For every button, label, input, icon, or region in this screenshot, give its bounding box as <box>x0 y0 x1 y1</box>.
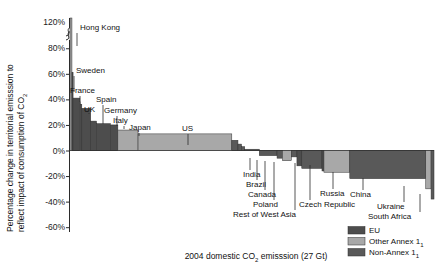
bar <box>245 149 260 150</box>
y-tick-label: -60% <box>45 222 65 232</box>
bar <box>324 151 350 173</box>
annotation-label: Russia <box>320 189 345 198</box>
annotation-label: Rest of West Asia <box>233 210 297 219</box>
bar <box>350 151 426 179</box>
bar <box>282 151 291 161</box>
legend-label: Non-Annex 11 <box>369 248 420 259</box>
bar <box>138 134 232 151</box>
annotation-label: South Africa <box>368 212 412 221</box>
x-axis-title-post: emisssion (27 Gt) <box>258 251 327 261</box>
bar <box>302 151 322 169</box>
y-tick-label: 0% <box>53 146 66 156</box>
annotation-label: Japan <box>129 123 151 132</box>
annotation-label: India <box>243 170 261 179</box>
y-tick-label: -40% <box>45 197 65 207</box>
bar <box>426 151 431 189</box>
bar <box>238 144 242 150</box>
annotation-label: Italy <box>113 116 128 125</box>
annotation-label: UK <box>84 105 96 114</box>
y-axis-title-subscript: 2 <box>22 93 28 97</box>
annotation-label: Brazil <box>246 180 266 189</box>
legend-label-text: Other Annex 1 <box>369 237 421 246</box>
annotation-label: Czech Republic <box>299 200 355 209</box>
y-axis-title-line2-text: reflect impact of consumption of CO <box>16 96 26 232</box>
y-tick-label: -20% <box>45 171 65 181</box>
bar <box>241 147 244 151</box>
bar <box>297 151 302 166</box>
bar <box>73 98 80 150</box>
bar <box>232 140 238 150</box>
annotation-label: France <box>70 86 95 95</box>
legend-swatch <box>348 227 365 235</box>
legend-label-subscript: 1 <box>416 253 420 259</box>
y-tick-label: 60% <box>48 69 65 79</box>
annotation-label: Sweden <box>76 66 105 75</box>
legend-label-text: EU <box>369 226 380 235</box>
bar <box>70 18 72 151</box>
y-axis-title-line2: reflect impact of consumption of CO2 <box>16 93 28 232</box>
legend-swatch <box>348 238 365 246</box>
bar <box>259 151 277 156</box>
bar-annotations: Hong KongSwedenFranceUKSpainGermanyItaly… <box>70 23 420 221</box>
legend-label-text: Non-Annex 1 <box>369 248 416 257</box>
annotation-label: Ukraine <box>377 202 405 211</box>
bar <box>277 151 282 159</box>
y-tick-label: 80% <box>48 43 65 53</box>
bar <box>97 124 111 151</box>
bar <box>291 151 297 157</box>
bar <box>431 151 434 200</box>
annotation-label: Canada <box>248 190 277 199</box>
legend: EUOther Annex 11Non-Annex 11 <box>348 226 424 259</box>
annotation-label: US <box>182 124 193 133</box>
annotation-label: Poland <box>253 200 278 209</box>
bar <box>118 130 138 150</box>
waterfall-bar-chart: Percentage change in territorial emisssi… <box>0 0 439 278</box>
bar <box>322 151 324 171</box>
legend-label-subscript: 1 <box>420 242 424 248</box>
y-axis-title-line1: Percentage change in territorial emisssi… <box>5 64 15 232</box>
x-axis-title-pre: 2004 domestic CO <box>185 251 256 261</box>
annotation-label: Spain <box>96 95 116 104</box>
x-axis-title: 2004 domestic CO2 emisssion (27 Gt) <box>185 251 328 263</box>
annotation-label: Hong Kong <box>80 23 120 32</box>
legend-swatch <box>348 249 365 257</box>
annotation-label: Germany <box>104 106 137 115</box>
bar <box>110 125 118 151</box>
y-axis-title: Percentage change in territorial emisssi… <box>5 64 28 232</box>
y-axis-tick-labels: 120%80%60%40%20%0%-20%-40%-60% <box>43 17 65 232</box>
bar <box>91 121 97 150</box>
figure-canvas: Percentage change in territorial emisssi… <box>0 0 439 278</box>
legend-label: Other Annex 11 <box>369 237 424 248</box>
y-tick-label: 120% <box>43 17 65 27</box>
y-tick-label: 20% <box>48 120 65 130</box>
legend-label: EU <box>369 226 380 235</box>
y-tick-label: 40% <box>48 94 65 104</box>
annotation-label: China <box>350 190 371 199</box>
bar <box>82 108 91 150</box>
